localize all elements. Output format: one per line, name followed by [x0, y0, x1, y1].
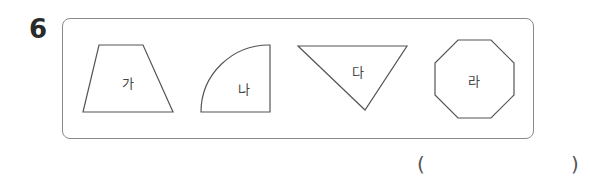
answer-close-paren: ) — [571, 152, 579, 176]
shape-label-da: 다 — [352, 62, 364, 81]
shape-label-ra: 라 — [468, 71, 480, 90]
shape-label-ga: 가 — [122, 73, 134, 92]
answer-open-paren: ( — [417, 152, 425, 176]
shapes-canvas — [0, 0, 590, 188]
quarter-circle-shape — [201, 45, 270, 112]
shape-label-na: 나 — [238, 79, 250, 98]
